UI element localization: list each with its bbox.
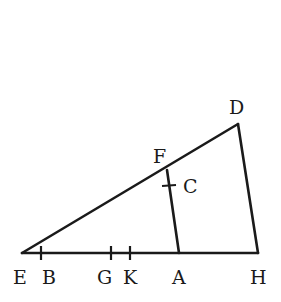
- label-B: B: [42, 266, 56, 288]
- segment-DH: [238, 124, 258, 253]
- label-C: C: [183, 175, 198, 197]
- label-A: A: [171, 266, 186, 288]
- label-G: G: [97, 266, 112, 288]
- label-E: E: [13, 266, 27, 288]
- label-D: D: [229, 96, 244, 118]
- segment-ED: [22, 124, 238, 253]
- label-F: F: [153, 145, 166, 167]
- tick-C: [162, 185, 176, 186]
- label-H: H: [250, 266, 267, 288]
- geometry-diagram: E B G K A H D F C: [0, 0, 281, 302]
- label-K: K: [123, 266, 138, 288]
- segment-FA: [167, 170, 179, 253]
